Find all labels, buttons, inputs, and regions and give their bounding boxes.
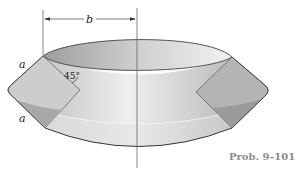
label-a-top: a (19, 58, 26, 71)
arrow-right-icon (130, 17, 136, 20)
problem-caption: Prob. 9–101 (229, 151, 295, 162)
arrow-left-icon (44, 17, 50, 20)
label-a-bottom: a (19, 112, 26, 125)
ring-figure: b a a 45° Prob. 9–101 (0, 0, 296, 172)
label-b: b (86, 13, 93, 26)
top-opening (43, 40, 232, 71)
label-angle: 45° (64, 71, 80, 81)
